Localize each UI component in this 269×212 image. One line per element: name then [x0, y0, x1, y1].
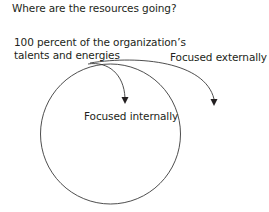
- organization-circle: [41, 64, 181, 204]
- internal-arrow-path: [88, 64, 125, 98]
- external-arrow-path: [90, 60, 214, 99]
- external-arrowhead-icon: [211, 99, 218, 106]
- resources-diagram: [0, 0, 269, 212]
- internal-arrowhead-icon: [122, 97, 129, 104]
